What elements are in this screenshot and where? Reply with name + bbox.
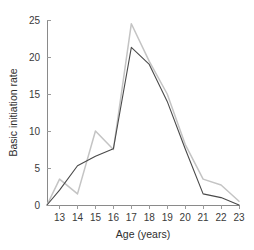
x-tick-label: 22 <box>215 212 227 223</box>
x-tick-label: 16 <box>108 212 120 223</box>
x-tick-label: 13 <box>54 212 66 223</box>
y-tick-label: 0 <box>34 200 40 211</box>
series-line-light-series <box>47 24 239 205</box>
y-tick-labels: 0510152025 <box>29 15 41 211</box>
x-tick-label: 23 <box>233 212 245 223</box>
x-tick-label: 20 <box>180 212 192 223</box>
x-tick-label: 15 <box>90 212 102 223</box>
y-tick-label: 5 <box>34 163 40 174</box>
x-tick-label: 18 <box>144 212 156 223</box>
y-axis-title: Basic initiation rate <box>7 68 19 156</box>
y-tick-label: 25 <box>29 15 41 26</box>
data-series <box>47 24 239 205</box>
x-tick-label: 21 <box>198 212 210 223</box>
y-tick-label: 20 <box>29 52 41 63</box>
x-axis-title: Age (years) <box>116 228 170 240</box>
x-tick-labels: 1314151617181920212223 <box>54 212 245 223</box>
x-tick-label: 14 <box>72 212 84 223</box>
x-tick-label: 19 <box>162 212 174 223</box>
line-chart: 1314151617181920212223 0510152025 Age (y… <box>0 0 254 250</box>
x-tick-label: 17 <box>126 212 138 223</box>
y-tick-label: 10 <box>29 126 41 137</box>
chart-container: 1314151617181920212223 0510152025 Age (y… <box>0 0 254 250</box>
y-tick-label: 15 <box>29 89 41 100</box>
